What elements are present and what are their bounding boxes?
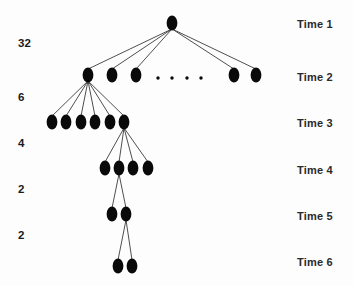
tree-edge: [119, 174, 126, 208]
tree-edge: [88, 81, 124, 116]
ellipsis-dot-icon: [185, 76, 188, 79]
tree-node[interactable]: [113, 258, 124, 273]
tree-node[interactable]: [47, 114, 58, 129]
ellipsis-dots-group: [156, 76, 202, 79]
tree-node[interactable]: [61, 114, 72, 129]
tree-node[interactable]: [100, 160, 111, 175]
tree-edge: [124, 128, 133, 162]
time-axis-label: Time 1: [297, 18, 333, 30]
tree-node[interactable]: [167, 15, 178, 30]
branch-count-label: 4: [18, 137, 25, 149]
branch-count-label: 32: [18, 37, 31, 49]
tree-node[interactable]: [90, 114, 101, 129]
tree-node[interactable]: [127, 258, 138, 273]
tree-edge: [126, 220, 132, 260]
time-axis-label: Time 2: [297, 71, 333, 83]
tree-node[interactable]: [251, 67, 262, 82]
tree-edge: [172, 29, 234, 69]
tree-node[interactable]: [83, 67, 94, 82]
tree-node[interactable]: [105, 114, 116, 129]
edge-layer: [52, 29, 256, 260]
time-axis-label: Time 5: [297, 210, 333, 222]
time-axis-label: Time 6: [297, 256, 333, 268]
time-axis-label: Time 3: [297, 117, 333, 129]
tree-node[interactable]: [119, 114, 130, 129]
ellipsis-dot-icon: [199, 76, 202, 79]
tree-node[interactable]: [229, 67, 240, 82]
tree-node[interactable]: [114, 160, 125, 175]
tree-edge: [118, 220, 126, 260]
tree-edge: [112, 174, 119, 208]
ellipsis-dot-icon: [170, 76, 173, 79]
tree-node[interactable]: [107, 206, 118, 221]
branch-count-label: 2: [18, 229, 25, 241]
node-layer: [47, 15, 262, 273]
tree-graphic: [0, 0, 353, 286]
time-axis-label: Time 4: [297, 164, 333, 176]
tree-edge: [124, 128, 148, 162]
tree-node[interactable]: [131, 67, 142, 82]
tree-diagram: 326422 Time 1Time 2Time 3Time 4Time 5Tim…: [0, 0, 353, 286]
tree-node[interactable]: [143, 160, 154, 175]
tree-edge: [172, 29, 256, 69]
branch-count-label: 2: [18, 183, 25, 195]
tree-edge: [52, 81, 88, 116]
tree-node[interactable]: [121, 206, 132, 221]
ellipsis-dot-icon: [156, 76, 159, 79]
tree-node[interactable]: [107, 67, 118, 82]
tree-node[interactable]: [128, 160, 139, 175]
branch-count-label: 6: [18, 91, 25, 103]
tree-edge: [88, 29, 172, 69]
tree-node[interactable]: [76, 114, 87, 129]
